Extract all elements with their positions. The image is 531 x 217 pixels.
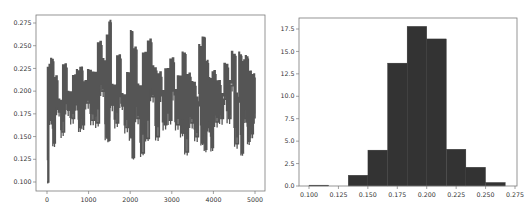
x-tick-label: 0.250 bbox=[477, 191, 495, 198]
x-tick-label: 0 bbox=[45, 196, 49, 203]
figure-canvas: 0.1000.1250.1500.1750.2000.2250.2500.275… bbox=[0, 0, 531, 217]
y-tick-label: 10.0 bbox=[280, 92, 294, 99]
x-tick-label: 0.275 bbox=[506, 191, 524, 198]
y-tick-label: 0.275 bbox=[13, 19, 31, 26]
x-tick-label: 0.150 bbox=[359, 191, 377, 198]
x-tick-label: 2000 bbox=[122, 196, 138, 203]
y-tick-label: 0.0 bbox=[284, 182, 294, 189]
histogram-bar bbox=[446, 149, 466, 186]
histogram-bar bbox=[348, 175, 368, 186]
x-tick-label: 0.125 bbox=[329, 191, 347, 198]
x-tick-label: 0.225 bbox=[447, 191, 465, 198]
x-tick-label: 5000 bbox=[247, 196, 263, 203]
y-tick-label: 12.5 bbox=[280, 70, 294, 77]
x-tick-label: 3000 bbox=[164, 196, 180, 203]
histogram-bar bbox=[388, 63, 408, 186]
histogram-bar bbox=[427, 39, 447, 186]
x-tick-label: 1000 bbox=[81, 196, 97, 203]
histogram-bar bbox=[368, 150, 388, 186]
y-tick-label: 0.150 bbox=[13, 133, 31, 140]
x-tick-label: 0.100 bbox=[300, 191, 318, 198]
y-tick-label: 0.225 bbox=[13, 65, 31, 72]
y-tick-label: 0.175 bbox=[13, 110, 31, 117]
histogram-bar bbox=[486, 182, 506, 186]
y-tick-label: 15.0 bbox=[280, 48, 294, 55]
histogram-bar bbox=[407, 26, 427, 186]
y-tick-label: 2.5 bbox=[284, 160, 294, 167]
histogram-bar bbox=[466, 167, 486, 186]
y-tick-label: 0.250 bbox=[13, 42, 31, 49]
y-tick-label: 0.200 bbox=[13, 87, 31, 94]
figure: 0.1000.1250.1500.1750.2000.2250.2500.275… bbox=[0, 0, 531, 217]
y-tick-label: 17.5 bbox=[280, 25, 294, 32]
x-tick-label: 4000 bbox=[205, 196, 221, 203]
histogram-chart: 0.02.55.07.510.012.515.017.50.1000.1250.… bbox=[280, 18, 524, 198]
x-tick-label: 0.175 bbox=[388, 191, 406, 198]
y-tick-label: 5.0 bbox=[284, 137, 294, 144]
y-tick-label: 7.5 bbox=[284, 115, 294, 122]
x-tick-label: 0.200 bbox=[418, 191, 436, 198]
y-tick-label: 0.125 bbox=[13, 155, 31, 162]
y-tick-label: 0.100 bbox=[13, 178, 31, 185]
line-chart: 0.1000.1250.1500.1750.2000.2250.2500.275… bbox=[13, 15, 265, 203]
